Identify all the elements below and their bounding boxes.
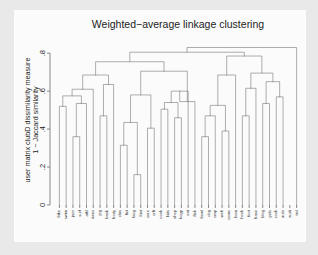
- chart-title: Weighted−average linkage clustering: [92, 18, 264, 30]
- leaf-label: bask: [104, 209, 109, 219]
- dendrogram-link: [175, 118, 182, 205]
- dendrogram-link: [251, 73, 273, 88]
- leaf-label: cmp: [212, 209, 217, 217]
- leaf-label: danc: [90, 210, 95, 219]
- leaf-label: swim: [63, 209, 68, 219]
- leaf-label: clas: [117, 210, 122, 217]
- leaf-labels: bikeswimjazzsurfathldancjogbaskbodyclasf…: [56, 205, 298, 220]
- dendrogram-link: [72, 89, 93, 205]
- leaf-label: cook: [158, 209, 163, 219]
- leaf-label: blog: [260, 209, 265, 217]
- dendrogram-link: [100, 116, 107, 205]
- leaf-label: base: [253, 209, 258, 219]
- leaf-label: body: [111, 209, 116, 219]
- leaf-label: eat: [185, 209, 190, 216]
- dendrogram-link: [76, 103, 86, 205]
- leaf-label: bike: [56, 209, 61, 217]
- dendrogram-link: [246, 88, 256, 205]
- dendrogram-link: [134, 175, 141, 205]
- y-axis-tick-label: 0: [38, 203, 47, 207]
- leaf-label: hom: [233, 209, 238, 218]
- y-axis-tick-label: .8: [38, 50, 47, 56]
- dendrogram-link: [210, 105, 225, 131]
- dendrogram-link: [103, 84, 113, 205]
- dendrogram-link: [73, 137, 80, 205]
- y-axis-tick-label: .6: [38, 88, 47, 94]
- dendrogram-link: [180, 91, 195, 205]
- dendrogram-link: [202, 137, 209, 205]
- dendrogram-link: [148, 128, 155, 205]
- leaf-label: fish: [192, 209, 197, 216]
- leaf-label: surf: [77, 209, 82, 217]
- dendrogram-link: [263, 103, 270, 205]
- leaf-label: crft: [151, 209, 156, 216]
- y-axis-tick-label: .4: [38, 126, 47, 132]
- leaf-label: fict: [124, 209, 129, 215]
- leaf-label: web: [219, 209, 224, 217]
- dendrogram-link: [130, 52, 244, 61]
- dendrogram-link: [242, 116, 249, 205]
- y-axis-tick-label: .2: [38, 164, 47, 170]
- leaf-label: hock: [239, 209, 244, 219]
- dendrogram-link: [124, 122, 138, 174]
- leaf-label: comc: [226, 210, 231, 220]
- leaf-label: polc: [267, 210, 272, 218]
- dendrogram-link: [83, 75, 109, 89]
- dendrogram-link: [276, 97, 283, 205]
- leaf-label: rock: [273, 209, 278, 218]
- dendrogram-link: [205, 116, 215, 205]
- dendrogram-link: [161, 109, 168, 205]
- dendrogram-link: [120, 145, 127, 205]
- dendrogram-figure: Weighted−average linkage clustering user…: [0, 0, 318, 255]
- dendrogram-link: [171, 91, 188, 205]
- leaf-label: jog: [97, 209, 102, 216]
- leaf-label: dog: [206, 209, 211, 217]
- leaf-label: shop: [172, 209, 177, 219]
- leaf-label: trvl: [294, 210, 299, 216]
- leaf-label: bowl: [199, 210, 204, 219]
- leaf-label: audi: [287, 210, 292, 218]
- dendrogram-link: [218, 75, 236, 205]
- leaf-label: kids: [165, 210, 170, 217]
- dendrogram-link: [164, 103, 178, 118]
- leaf-label: biog: [131, 209, 136, 217]
- dendrogram-link: [96, 62, 164, 75]
- dendrogram-link: [187, 47, 297, 205]
- dendrogram-link: [222, 131, 229, 205]
- dendrogram-links: [59, 47, 296, 205]
- dendrogram-link: [227, 56, 262, 75]
- leaf-label: foot: [246, 209, 251, 217]
- dendrogram-link: [63, 96, 82, 106]
- leaf-label: sore: [145, 209, 150, 218]
- leaf-label: hist: [138, 209, 143, 216]
- dendrogram-link: [266, 82, 280, 104]
- dendrogram-link: [141, 71, 188, 101]
- leaf-label: kogp: [178, 209, 183, 219]
- leaf-label: athl: [84, 210, 89, 217]
- dendrogram-link: [131, 95, 151, 128]
- leaf-label: jazz: [70, 210, 75, 218]
- leaf-label: auto: [280, 209, 285, 218]
- y-axis-label-line2: 1 − Jaccard similarity: [31, 86, 40, 154]
- figure-page: Weighted−average linkage clustering user…: [0, 0, 318, 255]
- y-axis: 0.2.4.6.8: [38, 50, 50, 207]
- dendrogram-link: [59, 106, 66, 205]
